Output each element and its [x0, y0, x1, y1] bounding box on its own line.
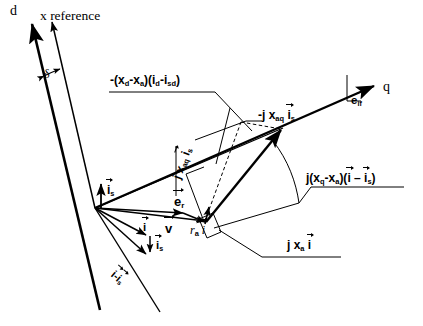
is-small-vector-glyph: i [156, 240, 159, 252]
jxq-dash: – [351, 171, 364, 185]
vector-arrow-bar [346, 167, 352, 168]
er-vector-glyph: e [174, 195, 181, 208]
leader-line-j-xa-i [219, 230, 341, 257]
formula-minus-xa: -x [129, 73, 140, 87]
jxa-i-vector-glyph: i [308, 239, 311, 251]
phasor-diagram-canvas: d x reference q δ eif -(xd-xa)(id-isd) -… [0, 0, 423, 326]
is-small-sub: s [159, 245, 163, 253]
label-q-axis: q [383, 80, 390, 94]
label-formula-xd-xa: -(xd-xa)(id-isd) [110, 74, 180, 87]
label-v: v [165, 222, 172, 235]
jxq-minus: -x [325, 171, 336, 185]
i-vector-glyph: i [143, 222, 146, 234]
label-ra-i: ra i [190, 224, 205, 237]
vector-arrow-bar [106, 179, 112, 180]
jxq-is-vector-glyph: i [364, 172, 367, 184]
jxq-open: j(x [306, 171, 320, 185]
formula-sub-sd: sd [167, 79, 176, 88]
er-sub: r [181, 201, 184, 210]
label-e-if: eif [351, 95, 362, 108]
x-reference-axis-line [52, 22, 95, 208]
vector-arrow-bar [363, 167, 369, 168]
jxq-mid: )( [339, 171, 347, 185]
label-is-top: is [107, 184, 114, 197]
label-d-axis: d [10, 4, 17, 18]
neg-j-x: -j x [258, 108, 275, 122]
label-e-r: er [174, 195, 184, 210]
label-x-reference: x reference [40, 9, 100, 23]
formula-open-i: )(i [144, 73, 155, 87]
vector-arrow-bar [286, 104, 292, 105]
neg-j-i-vector-glyph: i [287, 109, 290, 121]
vector-arrow-bar [142, 217, 148, 218]
neg-j-sub-aq: aq [275, 114, 284, 123]
vector-arrow-bar [173, 190, 183, 191]
vector-arrow-bar [307, 234, 313, 235]
diagram-vectors [0, 0, 423, 326]
neg-j-sub-s: s [291, 114, 295, 123]
jxa-text: j x [287, 238, 300, 252]
label-formula-j-xq-xa: j(xq-xa)(i – is) [306, 172, 376, 185]
v-vector [95, 208, 183, 213]
ra-i-vector-glyph: i [202, 224, 205, 236]
label-i: i [143, 222, 146, 234]
label-neg-j-xaq-is: -j xaq is [258, 109, 295, 122]
v-vector-glyph: v [165, 222, 172, 235]
origin-cluster-lines [95, 208, 160, 312]
is-top-vector-glyph: i [107, 184, 110, 196]
jxq-i-vector-glyph: i [347, 172, 350, 184]
is-top-sub: s [110, 189, 114, 198]
vector-arrow-bar [164, 217, 174, 218]
formula-xd-text: -(x [110, 73, 125, 87]
er-vector [95, 128, 283, 221]
formula-close: ) [176, 73, 180, 87]
vector-arrow-bar [201, 219, 207, 220]
label-j-xa-i: j xa i [287, 239, 311, 252]
label-is-small: is [156, 240, 163, 253]
vector-arrow-bar [155, 235, 161, 236]
j-xaq-is-dashed-vector [205, 122, 281, 221]
d-axis-line [32, 24, 100, 310]
parallelogram-left-edge [186, 167, 204, 219]
leader-line-xd-formula [109, 92, 252, 131]
e-if-sub: if [357, 100, 361, 108]
label-delta-angle: δ [44, 68, 50, 80]
jxq-close: ) [372, 171, 376, 185]
